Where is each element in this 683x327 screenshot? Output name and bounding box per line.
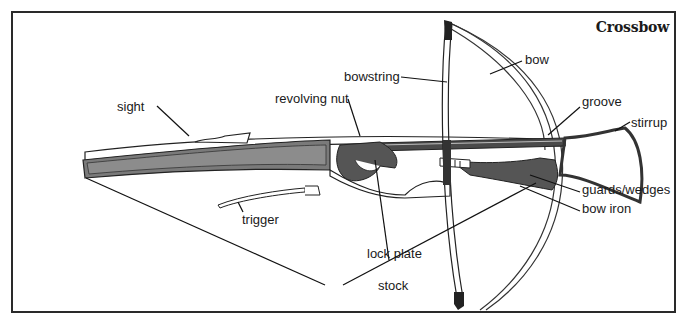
- bow-iron: [440, 158, 558, 190]
- label-trigger: trigger: [242, 213, 279, 226]
- label-revolving-nut: revolving nut: [275, 92, 349, 105]
- label-bow-iron: bow iron: [582, 202, 631, 215]
- label-bow: bow: [525, 53, 549, 66]
- crossbow-illustration: [0, 0, 683, 327]
- label-groove: groove: [582, 95, 622, 108]
- trigger: [218, 188, 305, 208]
- lock-plate: [337, 142, 397, 181]
- label-lock-plate: lock plate: [367, 247, 422, 260]
- label-sight: sight: [117, 100, 144, 113]
- label-stirrup: stirrup: [631, 116, 667, 129]
- label-bowstring: bowstring: [344, 70, 400, 83]
- figure-title: Crossbow: [596, 19, 669, 35]
- label-guards-wedges: guards/wedges: [582, 183, 670, 196]
- label-stock: stock: [378, 279, 408, 292]
